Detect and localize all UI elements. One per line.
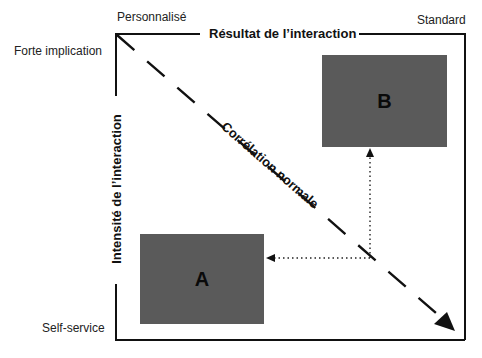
self-service-label: Self-service (42, 321, 105, 335)
box-b: B (322, 55, 447, 147)
left-axis-title: Intensité de l’interaction (109, 114, 124, 264)
box-a-label: A (195, 268, 209, 291)
top-axis-title: Résultat de l’interaction (209, 26, 356, 41)
diagonal-arrowhead-icon (434, 312, 455, 331)
arrowhead-to-b-icon (366, 148, 374, 157)
forte-implication-label: Forte implication (14, 44, 102, 58)
arrowhead-to-a-icon (266, 254, 275, 262)
personalise-label: Personnalisé (117, 10, 186, 24)
frame-top-left (116, 34, 200, 96)
box-a: A (140, 234, 264, 324)
box-b-label: B (377, 90, 391, 113)
standard-label: Standard (417, 13, 466, 27)
